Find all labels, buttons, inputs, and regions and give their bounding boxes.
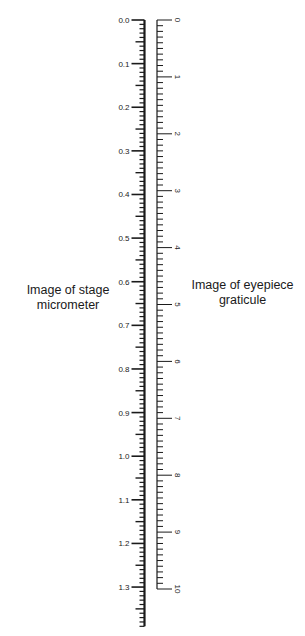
stage-micrometer-scale: 0.00.10.20.30.40.50.60.70.80.91.01.11.21…	[118, 16, 144, 626]
stage-tick-label: 1.3	[118, 583, 130, 592]
stage-micrometer-caption: Image of stage micrometer	[2, 283, 134, 313]
eyepiece-tick-label: 4	[173, 245, 182, 250]
eyepiece-tick-label: 1	[173, 75, 182, 80]
eyepiece-tick-label: 2	[173, 132, 182, 137]
stage-tick-label: 0.1	[118, 60, 130, 69]
stage-tick-label: 0.2	[118, 103, 130, 112]
stage-tick-label: 0.8	[118, 365, 130, 374]
stage-tick-label: 1.0	[118, 452, 130, 461]
eyepiece-tick-label: 0	[173, 18, 182, 23]
eyepiece-tick-label: 10	[173, 585, 182, 594]
eyepiece-tick-label: 3	[173, 188, 182, 193]
eyepiece-tick-label: 7	[173, 416, 182, 421]
stage-tick-label: 0.4	[118, 190, 130, 199]
micrometer-diagram: 0.00.10.20.30.40.50.60.70.80.91.01.11.21…	[0, 0, 305, 636]
eyepiece-tick-label: 8	[173, 473, 182, 478]
eyepiece-tick-label: 9	[173, 530, 182, 535]
stage-tick-label: 0.9	[118, 409, 130, 418]
eyepiece-tick-label: 6	[173, 359, 182, 364]
stage-tick-label: 1.1	[118, 496, 130, 505]
stage-tick-label: 0.5	[118, 234, 130, 243]
stage-tick-label: 0.7	[118, 321, 130, 330]
eyepiece-graticule-scale: 012345678910	[157, 18, 182, 594]
stage-tick-label: 1.2	[118, 539, 130, 548]
eyepiece-graticule-caption: Image of eyepiece graticule	[180, 278, 305, 308]
stage-tick-label: 0.3	[118, 147, 130, 156]
stage-tick-label: 0.0	[118, 16, 130, 25]
